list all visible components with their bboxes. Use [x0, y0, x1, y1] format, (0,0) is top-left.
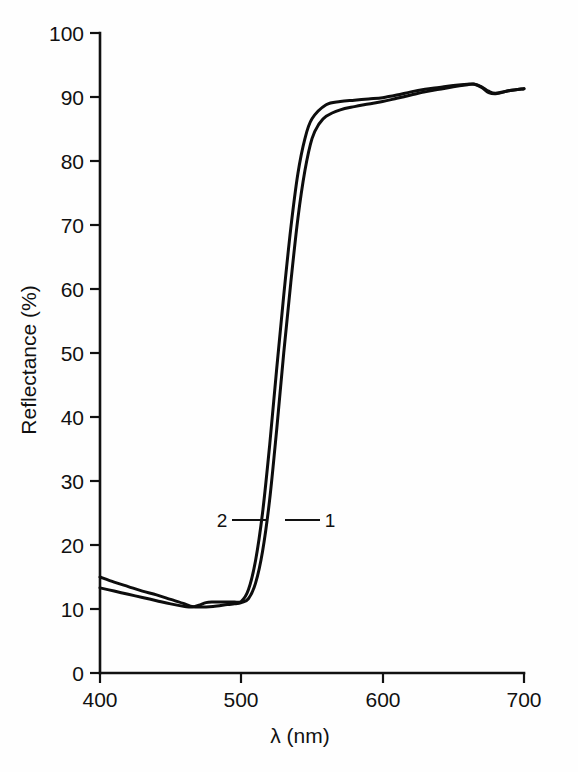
- x-tick-label-700: 700: [506, 688, 541, 711]
- curve-label-1: 1: [325, 510, 336, 531]
- y-tick-label-60: 60: [61, 278, 84, 301]
- x-axis-title: λ (nm): [270, 724, 330, 747]
- y-tick-label-0: 0: [72, 662, 84, 685]
- y-tick-label-10: 10: [61, 598, 84, 621]
- y-axis-title: Reflectance (%): [17, 285, 40, 434]
- curve-label-2: 2: [217, 510, 228, 531]
- figure-canvas: 0 10 20 30 40 50 60 70 80 90 100 400 500…: [0, 0, 578, 772]
- y-tick-label-100: 100: [49, 22, 84, 45]
- y-tick-label-30: 30: [61, 470, 84, 493]
- x-tick-label-600: 600: [365, 688, 400, 711]
- reflectance-spectrum-chart: 0 10 20 30 40 50 60 70 80 90 100 400 500…: [0, 0, 578, 772]
- y-tick-label-20: 20: [61, 534, 84, 557]
- x-tick-label-400: 400: [82, 688, 117, 711]
- y-tick-label-50: 50: [61, 342, 84, 365]
- data-curve-2: [100, 84, 524, 607]
- data-curve-1: [100, 84, 524, 607]
- x-axis-ticks: [100, 673, 524, 683]
- y-tick-label-40: 40: [61, 406, 84, 429]
- y-tick-label-90: 90: [61, 86, 84, 109]
- y-tick-label-80: 80: [61, 150, 84, 173]
- x-tick-label-500: 500: [223, 688, 258, 711]
- y-tick-label-70: 70: [61, 214, 84, 237]
